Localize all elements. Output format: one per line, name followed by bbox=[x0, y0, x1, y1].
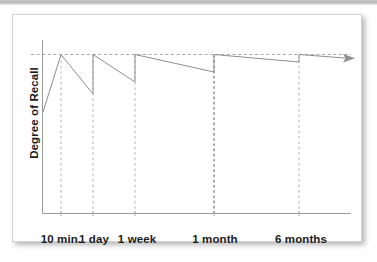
x-label-1-month: 1 month bbox=[192, 233, 237, 245]
degree-of-recall-curve bbox=[43, 55, 345, 113]
figure-card: Degree of Recall 10 min. 1 day 1 week 1 … bbox=[12, 14, 362, 242]
y-axis-title: Degree of Recall bbox=[28, 48, 40, 178]
x-label-1-week: 1 week bbox=[118, 233, 156, 245]
x-label-6-months: 6 months bbox=[275, 233, 327, 245]
x-label-10-min: 10 min. bbox=[41, 233, 81, 245]
top-grey-strip bbox=[0, 0, 377, 5]
x-label-1-day: 1 day bbox=[79, 233, 109, 245]
recall-curve-plot bbox=[13, 15, 361, 241]
